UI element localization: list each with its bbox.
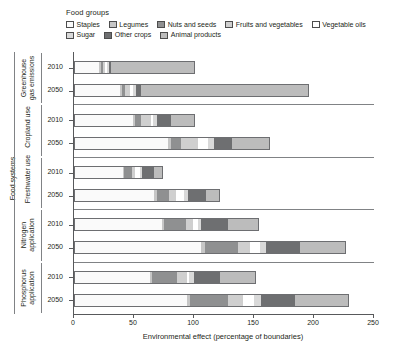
y-tick-label-cropland-use-2050: 2050 xyxy=(37,139,63,146)
legend-label-nuts_and_seeds: Nuts and seeds xyxy=(168,21,217,29)
legend-swatch-sugar xyxy=(66,32,74,39)
x-tick xyxy=(253,314,254,318)
bar-segment-staples[interactable] xyxy=(74,241,201,254)
legend-item-animal_products[interactable]: Animal products xyxy=(160,31,221,39)
bar-segment-staples[interactable] xyxy=(74,61,99,74)
plot-area xyxy=(73,52,374,315)
bar-segment-fruits-and-vegetables[interactable] xyxy=(228,294,244,307)
bar-segment-vegetable-oils[interactable] xyxy=(243,294,254,307)
legend: Food groups StaplesLegumesNuts and seeds… xyxy=(66,8,392,42)
bar-segment-staples[interactable] xyxy=(74,189,154,202)
y-tick xyxy=(69,300,73,301)
legend-item-nuts_and_seeds[interactable]: Nuts and seeds xyxy=(157,21,216,29)
bar-segment-nuts-and-seeds[interactable] xyxy=(152,271,177,284)
bar-segment-fruits-and-vegetables[interactable] xyxy=(177,271,187,284)
y-tick xyxy=(69,120,73,121)
legend-item-sugar[interactable]: Sugar xyxy=(66,31,95,39)
y-group-label-cropland-use: Cropland use xyxy=(24,102,32,150)
legend-swatch-legumes xyxy=(109,21,117,28)
bar-segment-animal-products[interactable] xyxy=(295,294,349,307)
bar-segment-animal-products[interactable] xyxy=(154,166,162,179)
legend-item-fruits_and_vegetables[interactable]: Fruits and vegetables xyxy=(225,21,302,29)
bar-segment-vegetable-oils[interactable] xyxy=(176,189,184,202)
bar-segment-animal-products[interactable] xyxy=(206,189,220,202)
legend-label-sugar: Sugar xyxy=(77,31,96,39)
y-tick xyxy=(69,173,73,174)
y-tick-label-nitrogen-application-2010: 2010 xyxy=(37,220,63,227)
bar-segment-nuts-and-seeds[interactable] xyxy=(164,218,186,231)
bar-segment-vegetable-oils[interactable] xyxy=(198,137,209,150)
bar-segment-animal-products[interactable] xyxy=(220,271,256,284)
x-axis: 050100150200250 xyxy=(73,314,373,334)
bar-segment-fruits-and-vegetables[interactable] xyxy=(238,241,250,254)
bar-segment-nuts-and-seeds[interactable] xyxy=(171,137,181,150)
group-separator xyxy=(74,262,374,263)
legend-label-staples: Staples xyxy=(77,21,100,29)
bar-freshwater-use-2050[interactable] xyxy=(74,189,220,202)
x-tick-label: 100 xyxy=(187,319,199,326)
y-group-label-freshwater-use: Freshwater use xyxy=(24,155,32,203)
legend-label-animal_products: Animal products xyxy=(171,31,221,39)
legend-item-vegetable_oils[interactable]: Vegetable oils xyxy=(312,21,366,29)
bar-segment-staples[interactable] xyxy=(74,166,123,179)
bar-segment-vegetable-oils[interactable] xyxy=(250,241,260,254)
bar-segment-other-crops[interactable] xyxy=(261,294,295,307)
bar-segment-staples[interactable] xyxy=(74,137,168,150)
x-tick-label: 0 xyxy=(71,319,75,326)
bar-phosphorus-application-2010[interactable] xyxy=(74,271,256,284)
y-tick-label-freshwater-use-2050: 2050 xyxy=(37,191,63,198)
bar-segment-other-crops[interactable] xyxy=(188,189,206,202)
bar-segment-other-crops[interactable] xyxy=(201,218,227,231)
bar-phosphorus-application-2050[interactable] xyxy=(74,294,349,307)
bar-segment-animal-products[interactable] xyxy=(171,114,196,127)
x-tick xyxy=(373,314,374,318)
bar-segment-fruits-and-vegetables[interactable] xyxy=(186,218,193,231)
bar-cropland-use-2050[interactable] xyxy=(74,137,270,150)
bar-segment-staples[interactable] xyxy=(74,114,133,127)
bar-segment-staples[interactable] xyxy=(74,271,150,284)
bar-segment-other-crops[interactable] xyxy=(194,271,220,284)
bar-greenhouse-gas-emissions-2010[interactable] xyxy=(74,61,195,74)
bar-segment-other-crops[interactable] xyxy=(157,114,170,127)
bar-segment-fruits-and-vegetables[interactable] xyxy=(169,189,176,202)
bar-segment-animal-products[interactable] xyxy=(300,241,347,254)
bar-segment-nuts-and-seeds[interactable] xyxy=(124,166,131,179)
bar-segment-staples[interactable] xyxy=(74,218,162,231)
bar-freshwater-use-2010[interactable] xyxy=(74,166,163,179)
legend-title: Food groups xyxy=(66,8,392,17)
bar-segment-other-crops[interactable] xyxy=(214,137,232,150)
bar-cropland-use-2010[interactable] xyxy=(74,114,195,127)
legend-item-legumes[interactable]: Legumes xyxy=(109,21,148,29)
bar-segment-animal-products[interactable] xyxy=(228,218,259,231)
y-tick xyxy=(69,68,73,69)
bar-segment-nuts-and-seeds[interactable] xyxy=(157,189,169,202)
bar-greenhouse-gas-emissions-2050[interactable] xyxy=(74,84,309,97)
bar-segment-staples[interactable] xyxy=(74,84,120,97)
bars-container xyxy=(74,52,374,314)
y-tick xyxy=(69,225,73,226)
bar-segment-staples[interactable] xyxy=(74,294,187,307)
bar-segment-animal-products[interactable] xyxy=(111,61,195,74)
bar-segment-animal-products[interactable] xyxy=(232,137,269,150)
bar-segment-other-crops[interactable] xyxy=(266,241,300,254)
bar-segment-fruits-and-vegetables[interactable] xyxy=(181,137,198,150)
legend-item-staples[interactable]: Staples xyxy=(66,21,100,29)
bar-segment-fruits-and-vegetables[interactable] xyxy=(141,114,151,127)
legend-swatch-animal_products xyxy=(160,32,168,39)
legend-item-other_crops[interactable]: Other crops xyxy=(104,31,151,39)
bar-segment-nuts-and-seeds[interactable] xyxy=(205,241,239,254)
group-separator xyxy=(74,209,374,210)
chart-root: Food groups StaplesLegumesNuts and seeds… xyxy=(0,0,397,355)
legend-swatch-other_crops xyxy=(104,32,112,39)
legend-label-fruits_and_vegetables: Fruits and vegetables xyxy=(236,21,303,29)
bar-segment-animal-products[interactable] xyxy=(141,84,309,97)
x-axis-title: Environmental effect (percentage of boun… xyxy=(73,332,373,341)
bar-segment-other-crops[interactable] xyxy=(142,166,154,179)
x-tick xyxy=(133,314,134,318)
bar-segment-sugar[interactable] xyxy=(254,294,261,307)
y-tick xyxy=(69,196,73,197)
bar-nitrogen-application-2050[interactable] xyxy=(74,241,346,254)
bar-segment-nuts-and-seeds[interactable] xyxy=(190,294,227,307)
y-tick-label-phosphorus-application-2010: 2010 xyxy=(37,273,63,280)
bar-nitrogen-application-2010[interactable] xyxy=(74,218,259,231)
